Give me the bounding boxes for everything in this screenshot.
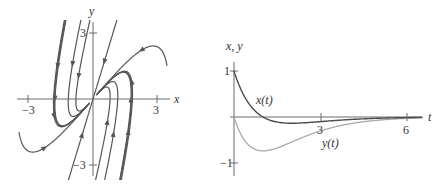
trajectory — [54, 0, 160, 126]
tick-label-yneg1: −1 — [220, 156, 233, 170]
tick-label-t6: 6 — [403, 123, 409, 137]
y-of-t-label: y(t) — [321, 136, 339, 150]
y-axis-label: y — [88, 4, 95, 18]
arrow-icon — [101, 58, 108, 65]
time-series-plot: x, y t 1 −1 3 6 x(t) y(t) — [220, 39, 432, 176]
x-tick-label-neg3: −3 — [22, 103, 35, 117]
xy-axis-label: x, y — [225, 39, 243, 53]
y-tick-label-3: 3 — [80, 26, 86, 40]
trajectory — [26, 72, 132, 190]
x-of-t-label: x(t) — [255, 93, 273, 107]
x-axis-label: x — [173, 92, 180, 106]
arrow-icon — [41, 144, 49, 151]
y-tick-label-neg3: −3 — [73, 158, 86, 172]
t-axis-label: t — [428, 110, 432, 124]
tick-label-y1: 1 — [224, 64, 230, 78]
arrow-icon — [79, 131, 86, 138]
arrow-icon — [138, 46, 146, 53]
x-tick-label-3: 3 — [153, 103, 159, 117]
trajectory — [76, 0, 311, 111]
figure: x y −3 3 3 −3 x, y t 1 −1 3 6 x(t) y(t) — [0, 0, 442, 190]
tick-label-t3: 3 — [317, 123, 323, 137]
